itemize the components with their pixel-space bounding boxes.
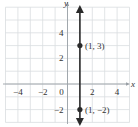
- x-tick-label: 0: [59, 87, 64, 97]
- y-tick-label: −2: [54, 105, 64, 115]
- y-tick-label: 2: [59, 53, 64, 63]
- x-axis-label: x: [130, 79, 135, 89]
- data-point: [77, 107, 82, 112]
- x-tick-labels: −4−2024: [13, 87, 120, 97]
- x-tick-label: −4: [13, 87, 23, 97]
- x-tick-label: 2: [90, 87, 95, 97]
- data-point: [77, 43, 82, 48]
- y-axis-label: y: [63, 0, 68, 8]
- point-label: (1, −2): [85, 105, 110, 115]
- point-label: (1, 3): [85, 41, 105, 51]
- coordinate-plane: x y −4−2024 42−2 (1, 3)(1, −2): [0, 0, 138, 127]
- y-tick-label: 4: [59, 28, 64, 38]
- x-tick-label: 4: [115, 87, 120, 97]
- x-tick-label: −2: [38, 87, 48, 97]
